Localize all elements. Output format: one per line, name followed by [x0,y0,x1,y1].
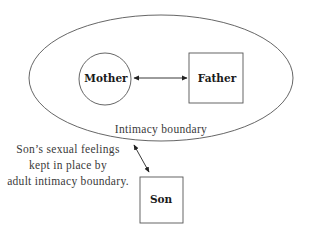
caption-line-1: Son’s sexual feelings [16,143,120,156]
family-boundary-diagram: Mother Father Intimacy boundary Son’s se… [0,0,311,236]
caption: Son’s sexual feelings kept in place by a… [7,143,129,188]
intimacy-boundary-label: Intimacy boundary [115,123,207,136]
son-node: Son [140,177,183,223]
caption-line-2: kept in place by [29,159,107,172]
boundary-son-arrow [134,145,149,172]
caption-line-3: adult intimacy boundary. [7,175,129,188]
father-label: Father [198,72,237,84]
son-label: Son [150,193,173,205]
mother-label: Mother [84,72,128,84]
mother-node: Mother [79,53,131,105]
father-node: Father [189,53,243,103]
